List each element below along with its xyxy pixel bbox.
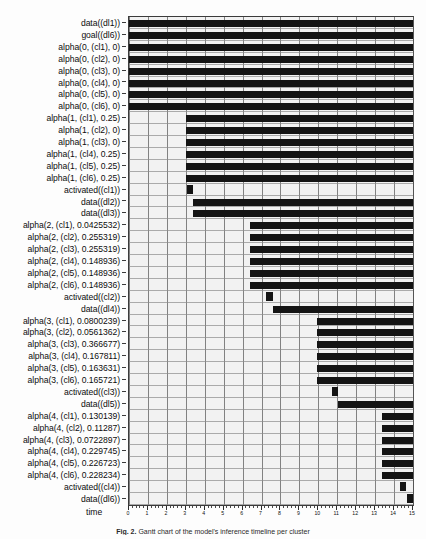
interval-bar <box>382 460 413 467</box>
interval-bar <box>129 68 413 75</box>
gantt-row[interactable] <box>129 410 413 422</box>
x-axis-minor-tick <box>226 506 227 508</box>
interval-bar <box>250 246 413 253</box>
x-axis-title: time <box>86 507 102 517</box>
gantt-row[interactable] <box>129 457 413 469</box>
x-axis-tick-label: 1 <box>145 510 148 516</box>
x-axis-minor-tick <box>340 506 341 508</box>
gantt-row[interactable] <box>129 29 413 41</box>
y-axis-tick <box>122 46 126 47</box>
y-axis-tick <box>122 284 126 285</box>
gantt-row[interactable] <box>129 326 413 338</box>
gantt-row[interactable] <box>129 77 413 89</box>
x-axis-minor-tick <box>173 506 174 508</box>
gantt-row[interactable] <box>129 303 413 315</box>
gantt-row[interactable] <box>129 219 413 231</box>
gantt-row[interactable] <box>129 65 413 77</box>
gantt-row[interactable] <box>129 196 413 208</box>
y-axis-tick <box>122 498 126 499</box>
x-axis-minor-tick <box>192 506 193 508</box>
x-axis-tick-label: 15 <box>409 510 415 516</box>
gantt-row[interactable] <box>129 17 413 29</box>
gantt-row[interactable] <box>129 422 413 434</box>
interval-bar <box>250 258 413 265</box>
y-axis-label-column: data((dl1))goal((dl6))alpha(0, (cl1), 0)… <box>0 16 126 506</box>
event-marker <box>407 494 413 503</box>
gantt-row[interactable] <box>129 88 413 100</box>
gantt-row[interactable] <box>129 386 413 398</box>
x-axis-minor-tick <box>397 506 398 508</box>
gantt-row[interactable] <box>129 136 413 148</box>
y-axis-tick <box>122 224 126 225</box>
x-axis-minor-tick <box>215 506 216 508</box>
gantt-row[interactable] <box>129 207 413 219</box>
gantt-row[interactable] <box>129 374 413 386</box>
y-axis-tick <box>122 22 126 23</box>
interval-bar <box>129 32 413 39</box>
figure-root: data((dl1))goal((dl6))alpha(0, (cl1), 0)… <box>0 0 426 539</box>
x-axis-minor-tick <box>385 506 386 508</box>
x-axis-minor-tick <box>287 506 288 508</box>
x-axis-minor-tick <box>208 506 209 508</box>
x-axis-minor-tick <box>401 506 402 508</box>
interval-bar <box>317 318 413 325</box>
gantt-row[interactable] <box>129 243 413 255</box>
interval-bar <box>338 401 413 408</box>
interval-bar <box>129 80 413 87</box>
gantt-row[interactable] <box>129 350 413 362</box>
gantt-row[interactable] <box>129 255 413 267</box>
gantt-chart: data((dl1))goal((dl6))alpha(0, (cl1), 0)… <box>0 0 426 525</box>
x-axis-minor-tick <box>359 506 360 508</box>
y-axis-tick <box>122 439 126 440</box>
gantt-row[interactable] <box>129 172 413 184</box>
gantt-row[interactable] <box>129 160 413 172</box>
x-axis-minor-tick <box>325 506 326 508</box>
gantt-row[interactable] <box>129 53 413 65</box>
gantt-row[interactable] <box>129 315 413 327</box>
gantt-row[interactable] <box>129 291 413 303</box>
x-axis-tick-label: 2 <box>164 510 167 516</box>
gantt-row[interactable] <box>129 231 413 243</box>
x-axis-tick-label: 8 <box>278 510 281 516</box>
gantt-row[interactable] <box>129 434 413 446</box>
x-axis-minor-tick <box>363 506 364 508</box>
y-axis-tick <box>122 296 126 297</box>
x-axis-minor-tick <box>367 506 368 508</box>
x-axis-minor-tick <box>332 506 333 508</box>
y-axis-tick <box>122 260 126 261</box>
interval-bar <box>382 472 413 479</box>
y-axis-tick <box>122 165 126 166</box>
x-axis-minor-tick <box>136 506 137 508</box>
interval-bar <box>250 270 413 277</box>
gantt-row[interactable] <box>129 338 413 350</box>
interval-bar <box>382 437 413 444</box>
gantt-row[interactable] <box>129 445 413 457</box>
gantt-row[interactable] <box>129 362 413 374</box>
x-axis-tick-label: 3 <box>183 510 186 516</box>
y-axis-tick <box>122 486 126 487</box>
x-axis-minor-tick <box>249 506 250 508</box>
x-axis-tick-label: 0 <box>127 510 130 516</box>
gantt-row[interactable] <box>129 279 413 291</box>
gantt-row[interactable] <box>129 124 413 136</box>
gantt-row[interactable] <box>129 112 413 124</box>
interval-bar <box>129 91 413 98</box>
gantt-row[interactable] <box>129 267 413 279</box>
gantt-row[interactable] <box>129 184 413 196</box>
x-axis-minor-tick <box>196 506 197 508</box>
y-axis-tick <box>122 70 126 71</box>
gantt-row[interactable] <box>129 398 413 410</box>
x-axis-minor-tick <box>181 506 182 508</box>
gantt-row[interactable] <box>129 469 413 481</box>
gantt-row[interactable] <box>129 148 413 160</box>
gantt-row[interactable] <box>129 493 413 505</box>
gantt-row[interactable] <box>129 100 413 112</box>
gantt-row[interactable] <box>129 41 413 53</box>
x-axis-minor-tick <box>283 506 284 508</box>
y-axis-tick <box>122 272 126 273</box>
y-axis-tick <box>122 331 126 332</box>
y-axis-tick <box>122 236 126 237</box>
plot-area <box>128 16 414 506</box>
gantt-row[interactable] <box>129 481 413 493</box>
y-axis-tick <box>122 81 126 82</box>
